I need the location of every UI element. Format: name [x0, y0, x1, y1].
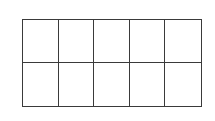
grid-cell-r1-c5	[165, 20, 201, 63]
grid-cell-r1-c4	[130, 20, 166, 63]
grid-cell-r2-c2	[59, 63, 95, 106]
grid-cell-r2-c4	[130, 63, 166, 106]
grid-cell-r2-c3	[94, 63, 130, 106]
ten-frame-grid	[22, 19, 202, 107]
grid-cell-r2-c1	[23, 63, 59, 106]
grid-cell-r1-c2	[59, 20, 95, 63]
grid-cell-r2-c5	[165, 63, 201, 106]
grid-cell-r1-c3	[94, 20, 130, 63]
grid-cell-r1-c1	[23, 20, 59, 63]
